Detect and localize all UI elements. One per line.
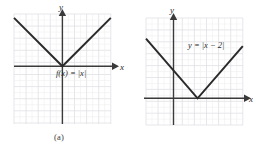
panel-a: y x f(x) = |x| (a) [0,0,126,155]
equation-label-b: y = |x − 2| [187,40,224,50]
grid-b [146,18,243,125]
figure-container: y x f(x) = |x| (a) [0,0,253,155]
equation-label-a: f(x) = |x| [56,68,86,78]
x-axis-label-a: x [119,62,124,72]
graph-b: y x y = |x − 2| [127,0,253,155]
y-axis-label-a: y [58,2,63,12]
y-axis-label-b: y [169,5,174,15]
caption-a: (a) [54,132,64,142]
panel-b: y x y = |x − 2| (b) [127,0,253,155]
x-axis-label-b: x [248,94,253,104]
